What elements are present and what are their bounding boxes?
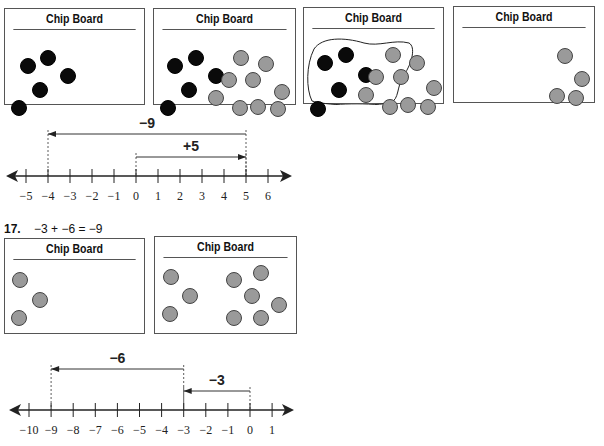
tick-label: −10: [20, 423, 39, 437]
tick-label: −8: [67, 423, 80, 437]
arrow-label: −3: [209, 372, 225, 388]
tick-label: −5: [133, 423, 146, 437]
tick-label: −2: [199, 423, 212, 437]
number-line-2-content: −10−9−8−7−6−5−4−3−2−101−6−3: [9, 350, 294, 437]
arrow-label: −6: [109, 350, 125, 366]
number-line-2: −10−9−8−7−6−5−4−3−2−101−6−3: [0, 0, 604, 446]
tick-label: −6: [111, 423, 124, 437]
tick-label: 0: [247, 423, 253, 437]
tick-label: −9: [45, 423, 58, 437]
tick-label: −1: [222, 423, 235, 437]
tick-label: 1: [269, 423, 275, 437]
tick-label: −7: [89, 423, 102, 437]
tick-label: −3: [177, 423, 190, 437]
tick-label: −4: [155, 423, 168, 437]
